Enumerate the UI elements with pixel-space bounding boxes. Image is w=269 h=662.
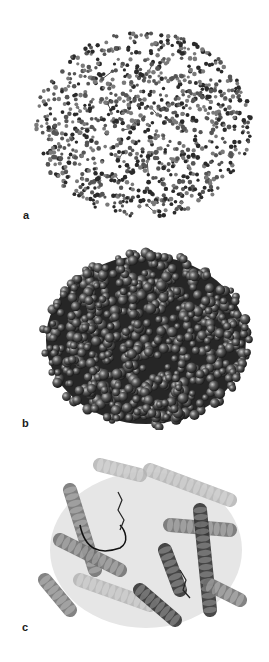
panel-label-b: b [22, 418, 29, 429]
panel-b-space-filling: b [0, 230, 269, 430]
panel-c-ribbon-cartoon: c [0, 430, 269, 662]
molecule-space-filling-image [0, 230, 269, 430]
panel-label-c: c [22, 622, 28, 633]
molecule-ball-and-stick-image [0, 0, 269, 230]
molecule-ribbon-cartoon-image [0, 430, 269, 662]
panel-label-a: a [23, 210, 29, 221]
panel-a-ball-and-stick: a [0, 0, 269, 230]
